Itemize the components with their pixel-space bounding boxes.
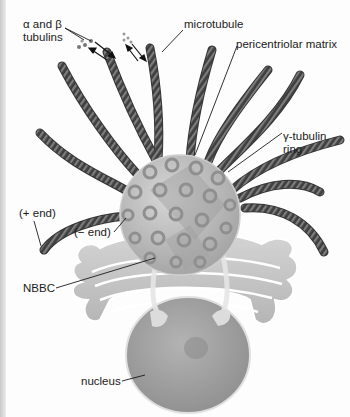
centrosome-sphere	[120, 155, 240, 275]
label-tubulins: tubulins	[23, 31, 63, 44]
nucleus	[126, 297, 250, 413]
tubulin-dimers	[77, 33, 133, 50]
label-alpha-beta: α and β	[23, 18, 62, 31]
label-plus-end: (+ end)	[19, 207, 56, 220]
label-pericentriolar-matrix: pericentriolar matrix	[236, 38, 337, 51]
label-nucleus: nucleus	[81, 375, 121, 388]
label-ring: ring	[283, 143, 302, 156]
label-minus-end: (− end)	[74, 226, 111, 239]
exchange-arrows	[89, 42, 146, 61]
label-nbbc: NBBC	[23, 282, 55, 295]
label-microtubule: microtubule	[184, 18, 243, 31]
label-gamma-tubulin: γ-tubulin	[283, 130, 326, 143]
